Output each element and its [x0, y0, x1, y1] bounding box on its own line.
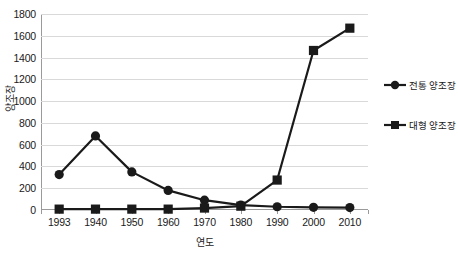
- x-axis-tick-label: 1950: [121, 216, 144, 228]
- y-axis-tick-label: 1800: [13, 8, 41, 20]
- y-axis-tick-label: 200: [19, 182, 41, 194]
- x-axis-tick-label: 2000: [302, 216, 325, 228]
- data-point-square: [127, 205, 136, 214]
- data-point-circle: [127, 167, 136, 176]
- x-axis-title: 연도: [196, 237, 214, 248]
- series-line: [59, 28, 350, 209]
- chart-container: 양조장 020040060080010001200140016001800 19…: [0, 0, 458, 255]
- legend-item-traditional: 전통 양조장: [383, 78, 458, 92]
- legend-label: 전통 양조장: [409, 78, 455, 92]
- series-plot: [41, 14, 368, 210]
- data-point-square: [200, 203, 209, 212]
- data-point-square: [236, 202, 245, 211]
- x-axis-tick-label: 1993: [48, 216, 71, 228]
- x-axis-tick-mark: [368, 210, 369, 214]
- x-axis-tick-label: 1980: [230, 216, 253, 228]
- y-axis-tick-label: 1200: [13, 73, 41, 85]
- x-axis-tick-label: 1990: [266, 216, 289, 228]
- plot-area: 020040060080010001200140016001800 199319…: [41, 14, 368, 210]
- legend-item-large: 대형 양조장: [383, 118, 458, 132]
- data-point-circle: [273, 202, 282, 211]
- data-point-circle: [200, 196, 209, 205]
- x-axis-tick-label: 1970: [193, 216, 216, 228]
- x-axis-tick-label: 2010: [339, 216, 362, 228]
- data-point-square: [91, 205, 100, 214]
- y-axis-tick-label: 400: [19, 160, 41, 172]
- x-axis-tick-label: 1960: [157, 216, 180, 228]
- data-point-circle: [91, 131, 100, 140]
- y-axis-tick-label: 1600: [13, 30, 41, 42]
- data-point-square: [273, 175, 282, 184]
- data-point-circle: [55, 170, 64, 179]
- legend: 전통 양조장 대형 양조장: [383, 78, 458, 132]
- legend-label: 대형 양조장: [409, 118, 455, 132]
- x-axis-title-wrap: 연도: [0, 234, 458, 249]
- y-axis-tick-label: 0: [30, 204, 41, 216]
- y-axis-tick-label: 1000: [13, 95, 41, 107]
- x-axis-tick-mark: [41, 210, 42, 214]
- data-point-circle: [345, 203, 354, 212]
- square-marker-icon: [383, 118, 407, 132]
- x-axis-tick-label: 1940: [84, 216, 107, 228]
- circle-marker-icon: [383, 78, 407, 92]
- data-point-circle: [309, 203, 318, 212]
- y-axis-tick-label: 800: [19, 117, 41, 129]
- data-point-circle: [164, 186, 173, 195]
- y-axis-tick-label: 1400: [13, 52, 41, 64]
- data-point-square: [55, 205, 64, 214]
- data-point-square: [164, 205, 173, 214]
- y-axis-tick-label: 600: [19, 139, 41, 151]
- data-point-square: [309, 46, 318, 55]
- data-point-square: [345, 24, 354, 33]
